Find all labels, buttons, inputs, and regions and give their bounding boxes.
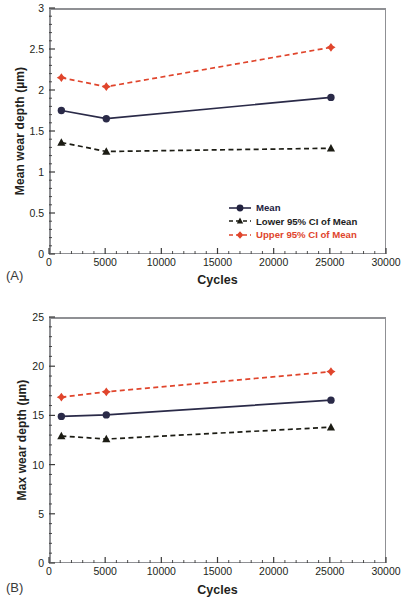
x-tick-label: 15000	[203, 565, 232, 577]
x-tick-label: 0	[46, 565, 52, 577]
y-tick-label: 0	[0, 249, 44, 259]
data-point-marker	[103, 115, 110, 122]
data-point-marker	[327, 396, 334, 403]
x-tick-label: 25000	[315, 565, 344, 577]
legend-label-lower-ci: Lower 95% CI of Mean	[256, 215, 357, 229]
chart-panel-b: 0510152025 05000100001500020000250003000…	[0, 300, 405, 610]
legend-key-triangle-icon	[228, 216, 252, 226]
x-tick-label: 5000	[93, 256, 116, 268]
data-point-marker	[102, 387, 111, 396]
legend-a: Mean Lower 95% CI of Mean Upper 95% CI o…	[228, 201, 357, 242]
data-point-marker	[327, 94, 334, 101]
legend-key-diamond-icon	[228, 230, 252, 240]
data-point-marker	[57, 393, 66, 402]
data-point-marker	[57, 73, 66, 82]
data-point-marker	[326, 367, 335, 376]
x-axis-title-b: Cycles	[49, 583, 386, 597]
figure-caption-fragment	[4, 600, 402, 609]
x-axis-title-a: Cycles	[49, 273, 386, 287]
y-axis-title-b: Max wear depth (µm)	[15, 360, 29, 520]
x-tick-label: 0	[46, 256, 52, 268]
x-tick-label: 5000	[93, 565, 116, 577]
x-tick-label: 25000	[315, 256, 344, 268]
data-point-marker	[103, 411, 110, 418]
x-tick-label: 10000	[147, 256, 176, 268]
y-tick-label: 0	[0, 558, 44, 568]
panel-label-b: (B)	[6, 580, 23, 595]
y-axis-title-a: Mean wear depth (µm)	[13, 51, 27, 211]
x-tick-label: 20000	[259, 565, 288, 577]
legend-key-circle-icon	[228, 203, 252, 213]
plot-area-b	[49, 317, 386, 563]
data-point-marker	[327, 144, 335, 152]
legend-item-mean: Mean	[228, 201, 357, 215]
chart-panel-a: 00.511.522.53 05000100001500020000250003…	[0, 0, 405, 300]
data-point-marker	[326, 43, 335, 52]
legend-item-lower-ci: Lower 95% CI of Mean	[228, 215, 357, 229]
x-tick-label: 15000	[203, 256, 232, 268]
x-tick-label: 10000	[147, 565, 176, 577]
legend-label-upper-ci: Upper 95% CI of Mean	[256, 228, 357, 242]
legend-label-mean: Mean	[256, 201, 281, 215]
data-point-marker	[327, 423, 335, 431]
y-tick-label: 25	[0, 312, 44, 322]
x-tick-label: 30000	[371, 256, 400, 268]
panel-label-a: (A)	[6, 268, 23, 283]
x-tick-label: 20000	[259, 256, 288, 268]
x-tick-label: 30000	[371, 565, 400, 577]
data-point-marker	[57, 138, 65, 146]
data-point-marker	[58, 413, 65, 420]
data-point-marker	[58, 107, 65, 114]
y-tick-label: 3	[0, 3, 44, 13]
legend-item-upper-ci: Upper 95% CI of Mean	[228, 228, 357, 242]
data-point-marker	[102, 82, 111, 91]
